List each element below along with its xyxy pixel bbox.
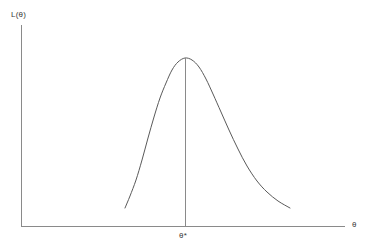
- theta-star-label: θ*: [179, 231, 187, 241]
- likelihood-curve: [125, 58, 290, 208]
- x-axis-label: θ: [352, 220, 357, 230]
- plot-area: [0, 0, 368, 251]
- likelihood-function-figure: L(θ) θ θ*: [0, 0, 368, 251]
- y-axis-label: L(θ): [11, 10, 26, 20]
